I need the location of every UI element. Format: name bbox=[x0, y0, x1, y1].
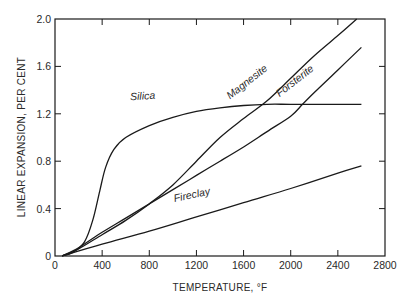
series-label-silica: Silica bbox=[130, 89, 156, 102]
x-tick-label: 0 bbox=[52, 259, 58, 271]
axis-tick-labels: 04008001200160020002400280000.40.81.21.6… bbox=[36, 13, 396, 271]
y-tick-label: 0.4 bbox=[36, 203, 51, 215]
x-tick-label: 2400 bbox=[326, 259, 350, 271]
x-tick-label: 1600 bbox=[232, 259, 256, 271]
series-label-magnesite: Magnesite bbox=[224, 62, 270, 101]
y-tick-label: 1.2 bbox=[36, 108, 51, 120]
x-tick-label: 1200 bbox=[185, 259, 209, 271]
series-line-forsterite bbox=[62, 47, 361, 256]
x-tick-label: 2000 bbox=[279, 259, 303, 271]
series-label-fireclay: Fireclay bbox=[173, 185, 212, 205]
x-tick-label: 400 bbox=[93, 259, 111, 271]
y-tick-label: 2.0 bbox=[36, 13, 51, 25]
series-line-fireclay bbox=[62, 166, 361, 256]
y-tick-label: 0 bbox=[45, 250, 51, 262]
y-tick-label: 1.6 bbox=[36, 60, 51, 72]
linear-expansion-chart: 04008001200160020002400280000.40.81.21.6… bbox=[0, 0, 416, 303]
y-axis-title: LINEAR EXPANSION, PER CENT bbox=[16, 57, 27, 217]
x-tick-label: 2800 bbox=[373, 259, 397, 271]
x-tick-label: 800 bbox=[141, 259, 159, 271]
y-tick-label: 0.8 bbox=[36, 155, 51, 167]
series-label-forsterite: Forsterite bbox=[273, 62, 315, 99]
data-series bbox=[62, 19, 361, 256]
series-line-magnesite bbox=[62, 19, 357, 256]
x-axis-title: TEMPERATURE, °F bbox=[173, 282, 268, 293]
series-labels: SilicaMagnesiteForsteriteFireclay bbox=[130, 62, 316, 204]
